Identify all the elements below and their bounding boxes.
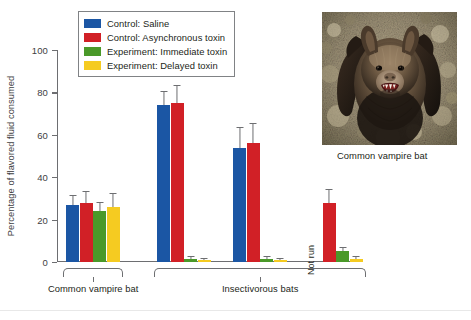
bar bbox=[184, 259, 197, 262]
error-bar bbox=[190, 257, 191, 259]
figure-root: 020406080100 Not run Common vampire bat … bbox=[0, 0, 471, 320]
error-bar-cap bbox=[83, 191, 90, 192]
y-axis-title: Percentage of flavored fluid consumed bbox=[6, 0, 16, 50]
error-bar bbox=[177, 86, 178, 103]
photo-caption: Common vampire bat bbox=[337, 150, 457, 162]
bar bbox=[350, 259, 363, 262]
legend-item[interactable]: Control: Saline bbox=[84, 16, 227, 30]
error-bar bbox=[113, 194, 114, 207]
error-bar-cap bbox=[353, 256, 360, 257]
bar bbox=[66, 205, 79, 262]
bracket-stem bbox=[93, 277, 94, 282]
bar-group bbox=[233, 50, 287, 262]
y-axis-tick: 80 bbox=[52, 92, 57, 93]
y-axis-tick-label: 80 bbox=[37, 87, 48, 98]
error-bar bbox=[86, 192, 87, 203]
error-bar bbox=[342, 248, 343, 251]
legend-item[interactable]: Experiment: Immediate toxin bbox=[84, 44, 227, 58]
bracket-stem bbox=[260, 277, 261, 282]
y-axis-tick: 20 bbox=[52, 220, 57, 221]
legend-item-label: Control: Saline bbox=[107, 18, 169, 29]
error-bar-cap bbox=[160, 91, 167, 92]
legend-color-swatch bbox=[84, 33, 101, 42]
bar bbox=[336, 251, 349, 262]
bar bbox=[260, 259, 273, 262]
error-bar bbox=[239, 128, 240, 147]
error-bar-cap bbox=[326, 189, 333, 190]
error-bar bbox=[280, 259, 281, 260]
error-bar-cap bbox=[174, 85, 181, 86]
bar bbox=[247, 143, 260, 262]
vampire-bat-photo bbox=[322, 12, 457, 145]
error-bar bbox=[99, 203, 100, 211]
legend: Control: SalineControl: Asynchronous tox… bbox=[78, 11, 235, 77]
error-bar-cap bbox=[96, 202, 103, 203]
bar bbox=[198, 260, 211, 262]
y-axis-tick: 100 bbox=[52, 50, 57, 51]
error-bar-cap bbox=[69, 195, 76, 196]
y-axis-tick-label: 100 bbox=[32, 45, 48, 56]
bar bbox=[157, 105, 170, 262]
y-axis-tick-label: 0 bbox=[43, 257, 48, 268]
error-bar bbox=[329, 190, 330, 203]
legend-color-swatch bbox=[84, 19, 101, 28]
legend-color-swatch bbox=[84, 61, 101, 70]
group-bracket-insectivorous-label: Insectivorous bats bbox=[222, 283, 298, 294]
bar bbox=[171, 103, 184, 262]
legend-item-label: Experiment: Immediate toxin bbox=[107, 46, 227, 57]
error-bar-cap bbox=[187, 256, 194, 257]
y-axis-tick-label: 40 bbox=[37, 172, 48, 183]
error-bar bbox=[356, 257, 357, 259]
bar bbox=[323, 203, 336, 262]
plot-area: 020406080100 Not run Common vampire bat … bbox=[57, 50, 352, 262]
legend-item-label: Experiment: Delayed toxin bbox=[107, 60, 218, 71]
group-bracket-vampire-label: Common vampire bat bbox=[48, 283, 139, 294]
error-bar-cap bbox=[110, 193, 117, 194]
y-axis-tick: 0 bbox=[52, 262, 57, 263]
group-bracket-insectivorous: Insectivorous bats bbox=[154, 268, 366, 277]
error-bar-cap bbox=[201, 258, 208, 259]
legend-item[interactable]: Control: Asynchronous toxin bbox=[84, 30, 227, 44]
bar-group bbox=[157, 50, 211, 262]
bar bbox=[93, 211, 106, 262]
bar-group bbox=[66, 50, 120, 262]
y-axis-tick: 60 bbox=[52, 135, 57, 136]
bar bbox=[107, 207, 120, 262]
error-bar-cap bbox=[339, 247, 346, 248]
y-axis-line bbox=[57, 50, 58, 262]
y-axis-title-text: Percentage of flavored fluid consumed bbox=[6, 50, 16, 262]
error-bar bbox=[253, 124, 254, 143]
error-bar-cap bbox=[263, 256, 270, 257]
error-bar-cap bbox=[236, 127, 243, 128]
y-axis-tick-label: 60 bbox=[37, 129, 48, 140]
legend-color-swatch bbox=[84, 47, 101, 56]
error-bar bbox=[266, 257, 267, 259]
error-bar bbox=[163, 92, 164, 105]
bar bbox=[233, 148, 246, 262]
error-bar bbox=[204, 259, 205, 260]
y-axis-tick: 40 bbox=[52, 177, 57, 178]
error-bar bbox=[72, 196, 73, 204]
bar bbox=[80, 203, 93, 262]
bat-photo-image bbox=[322, 12, 457, 145]
error-bar-cap bbox=[277, 258, 284, 259]
legend-item[interactable]: Experiment: Delayed toxin bbox=[84, 58, 227, 72]
group-bracket-vampire: Common vampire bat bbox=[63, 268, 123, 277]
y-axis-tick-label: 20 bbox=[37, 214, 48, 225]
bar bbox=[274, 260, 287, 262]
error-bar-cap bbox=[250, 123, 257, 124]
legend-item-label: Control: Asynchronous toxin bbox=[107, 32, 225, 43]
bottom-rule bbox=[0, 310, 471, 311]
